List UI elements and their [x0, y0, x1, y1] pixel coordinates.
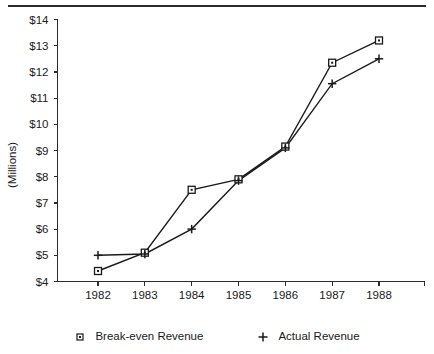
square-marker-icon — [74, 331, 86, 343]
y-tick-label: $9 — [36, 145, 49, 157]
chart-plot-area: $4$5$6$7$8$9$10$11$12$13$14 198219831984… — [0, 0, 434, 318]
x-tick-label: 1988 — [366, 289, 392, 301]
y-tick-label: $13 — [29, 40, 48, 52]
x-axis-tick-labels: 1982198319841985198619871988 — [85, 289, 392, 301]
y-tick-label: $8 — [36, 171, 49, 183]
legend-label-break-even: Break-even Revenue — [95, 331, 203, 343]
series-lines-group — [98, 40, 379, 271]
y-tick-label: $5 — [36, 249, 49, 261]
legend-label-actual: Actual Revenue — [278, 331, 359, 343]
data-point-break-even-center — [331, 62, 333, 64]
y-tick-label: $7 — [36, 197, 49, 209]
revenue-chart-figure: $4$5$6$7$8$9$10$11$12$13$14 198219831984… — [0, 0, 434, 354]
x-tick-label: 1986 — [273, 289, 299, 301]
chart-legend: Break-even Revenue Actual Revenue — [0, 326, 434, 348]
line-chart-svg: $4$5$6$7$8$9$10$11$12$13$14 198219831984… — [0, 0, 434, 318]
series-line-actual — [98, 59, 379, 256]
x-tick-label: 1984 — [179, 289, 205, 301]
series-line-break-even — [98, 40, 379, 271]
y-axis-title: (Millions) — [6, 142, 18, 188]
data-point-break-even-center — [191, 189, 193, 191]
x-tick-label: 1983 — [132, 289, 158, 301]
y-tick-label: $14 — [29, 14, 49, 26]
legend-entry-actual: Actual Revenue — [257, 331, 359, 343]
data-point-break-even-center — [97, 270, 99, 272]
x-axis-group: 1982198319841985198619871988 — [58, 282, 426, 301]
series-markers-group — [94, 37, 383, 275]
y-tick-label: $10 — [29, 118, 48, 130]
y-tick-label: $4 — [36, 276, 49, 288]
x-tick-label: 1987 — [319, 289, 345, 301]
y-tick-label: $11 — [30, 92, 48, 104]
x-tick-label: 1985 — [226, 289, 252, 301]
plus-marker-icon — [257, 331, 269, 343]
y-axis-tick-labels: $4$5$6$7$8$9$10$11$12$13$14 — [29, 14, 49, 288]
y-tick-label: $12 — [29, 66, 48, 78]
x-tick-label: 1982 — [85, 289, 111, 301]
y-tick-label: $6 — [36, 223, 49, 235]
data-point-break-even-center — [378, 39, 380, 41]
y-axis-group: $4$5$6$7$8$9$10$11$12$13$14 — [29, 14, 57, 288]
legend-entry-break-even: Break-even Revenue — [74, 331, 203, 343]
data-point-actual — [375, 55, 383, 63]
data-point-actual — [94, 251, 102, 259]
y-axis-title-group: (Millions) — [6, 142, 18, 188]
